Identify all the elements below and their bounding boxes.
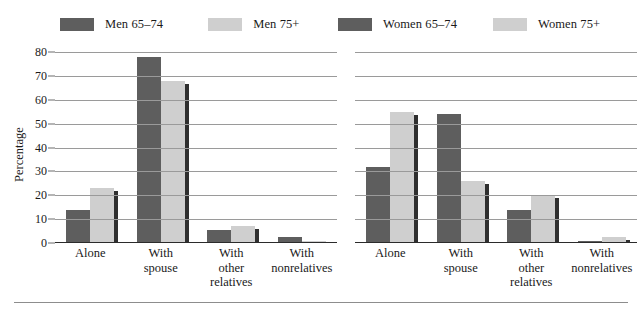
gridline-70 xyxy=(55,76,337,77)
gridline-80 xyxy=(55,52,337,53)
bar-shadow xyxy=(114,191,118,243)
bar-women-1-1 xyxy=(461,181,485,243)
legend-label-women-65-74: Women 65–74 xyxy=(383,17,457,32)
legend-entry-men-75-plus: Men 75+ xyxy=(208,17,299,32)
legend-label-women-75-plus: Women 75+ xyxy=(538,17,600,32)
y-tick-mark-50 xyxy=(48,123,55,124)
x-axis-label-men-2: Withotherrelatives xyxy=(196,246,267,298)
bar-shadow xyxy=(555,198,559,243)
gridline-20 xyxy=(55,195,337,196)
y-tick-label-50: 50 xyxy=(7,116,47,131)
y-tick-label-70: 70 xyxy=(7,68,47,83)
gridline-60 xyxy=(55,100,337,101)
x-axis-label-line: other xyxy=(496,261,567,276)
x-axis-label-men-3: Withnonrelatives xyxy=(267,246,338,298)
legend-entry-women-75-plus: Women 75+ xyxy=(493,17,600,32)
gridline-50 xyxy=(55,124,337,125)
y-tick-mark-30 xyxy=(48,171,55,172)
y-tick-label-30: 30 xyxy=(7,164,47,179)
bar-women-2-0 xyxy=(507,210,531,243)
y-tick-label-20: 20 xyxy=(7,188,47,203)
bar-body xyxy=(366,167,390,243)
legend-swatch-women-75-plus xyxy=(493,18,527,31)
y-tick-label-40: 40 xyxy=(7,140,47,155)
y-tick-label-60: 60 xyxy=(7,92,47,107)
chart-panel-men xyxy=(55,52,337,243)
footer-divider xyxy=(14,302,628,303)
x-axis-label-line: With xyxy=(426,246,497,261)
y-tick-mark-70 xyxy=(48,75,55,76)
legend-entry-men-65-74: Men 65–74 xyxy=(60,17,163,32)
x-axis-label-line: With xyxy=(567,246,638,261)
gridline-30 xyxy=(55,171,337,172)
gridline-70 xyxy=(355,76,637,77)
x-axis-label-line: spouse xyxy=(126,261,197,276)
x-axis-label-line: relatives xyxy=(496,275,567,290)
gridline-20 xyxy=(355,195,637,196)
legend-label-men-75-plus: Men 75+ xyxy=(253,17,299,32)
x-axis-line-women xyxy=(355,242,637,243)
bar-shadow xyxy=(485,184,489,243)
y-tick-mark-40 xyxy=(48,147,55,148)
x-axis-label-women-1: Withspouse xyxy=(426,246,497,298)
gridline-10 xyxy=(55,219,337,220)
y-axis: Percentage 01020304050607080 xyxy=(0,52,55,243)
bar-body xyxy=(461,181,485,243)
plot-area-women xyxy=(355,52,637,243)
x-axis-label-women-2: Withotherrelatives xyxy=(496,246,567,298)
y-tick-mark-80 xyxy=(48,52,55,53)
legend-label-men-65-74: Men 65–74 xyxy=(105,17,163,32)
gridline-40 xyxy=(55,148,337,149)
x-axis-label-line: With xyxy=(196,246,267,261)
x-axis-label-line: other xyxy=(196,261,267,276)
bar-women-0-1 xyxy=(390,112,414,243)
gridline-50 xyxy=(355,124,637,125)
x-axis-label-line: Alone xyxy=(355,246,426,261)
gridline-40 xyxy=(355,148,637,149)
x-axis-label-line: nonrelatives xyxy=(567,261,638,276)
bar-body xyxy=(137,57,161,243)
bar-body xyxy=(231,226,255,243)
y-tick-mark-20 xyxy=(48,195,55,196)
x-axis-label-men-0: Alone xyxy=(55,246,126,298)
bar-body xyxy=(507,210,531,243)
bar-body xyxy=(66,210,90,243)
bar-shadow xyxy=(414,115,418,243)
y-tick-label-10: 10 xyxy=(7,212,47,227)
x-axis-label-line: With xyxy=(267,246,338,261)
bar-men-0-1 xyxy=(90,188,114,243)
y-tick-label-0: 0 xyxy=(7,236,47,251)
x-axis-label-line: With xyxy=(496,246,567,261)
bar-body xyxy=(437,114,461,243)
x-axis-label-women-3: Withnonrelatives xyxy=(567,246,638,298)
bar-men-2-1 xyxy=(231,226,255,243)
gridline-10 xyxy=(355,219,637,220)
gridline-60 xyxy=(355,100,637,101)
y-tick-label-80: 80 xyxy=(7,45,47,60)
y-tick-mark-60 xyxy=(48,99,55,100)
legend-women: Women 65–74 Women 75+ xyxy=(338,17,600,32)
x-axis-label-line: relatives xyxy=(196,275,267,290)
legend-swatch-women-65-74 xyxy=(338,18,372,31)
x-axis-label-line: spouse xyxy=(426,261,497,276)
legend-men: Men 65–74 Men 75+ xyxy=(60,17,300,32)
x-axis-label-line: With xyxy=(126,246,197,261)
bar-men-1-0 xyxy=(137,57,161,243)
gridline-30 xyxy=(355,171,637,172)
x-axis-labels-men: AloneWithspouseWithotherrelativesWithnon… xyxy=(55,246,337,298)
chart-panel-women xyxy=(355,52,637,243)
legend-swatch-men-75-plus xyxy=(208,18,242,31)
plot-area-men xyxy=(55,52,337,243)
x-axis-label-line: Alone xyxy=(55,246,126,261)
legend-swatch-men-65-74 xyxy=(60,18,94,31)
x-axis-labels-women: AloneWithspouseWithotherrelativesWithnon… xyxy=(355,246,637,298)
y-tick-mark-10 xyxy=(48,219,55,220)
x-axis-label-women-0: Alone xyxy=(355,246,426,298)
gridline-80 xyxy=(355,52,637,53)
bar-body xyxy=(90,188,114,243)
figure-root: Men 65–74 Men 75+ Women 65–74 Women 75+ … xyxy=(0,0,642,317)
bar-women-0-0 xyxy=(366,167,390,243)
bar-women-1-0 xyxy=(437,114,461,243)
x-axis-label-line: nonrelatives xyxy=(267,261,338,276)
bar-men-0-0 xyxy=(66,210,90,243)
